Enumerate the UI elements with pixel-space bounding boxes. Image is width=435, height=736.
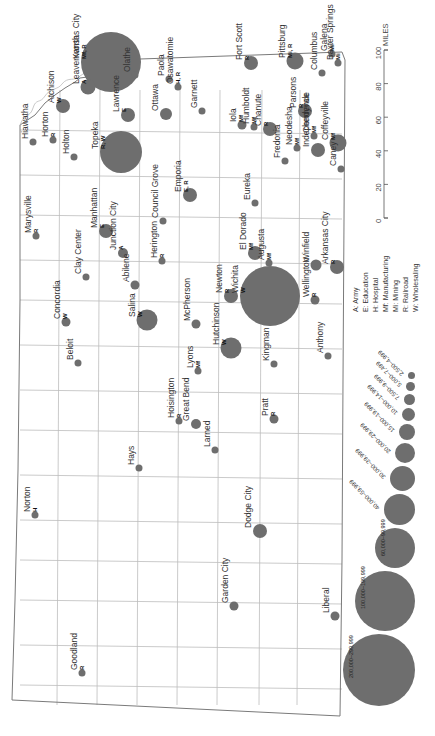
city-name: Manhattan [89, 188, 99, 228]
city-marker: EmporiaE, R [173, 160, 197, 202]
population-circle [136, 465, 143, 472]
function-code: R [270, 411, 276, 416]
city-marker: Council Grove [150, 164, 167, 225]
function-code: R [33, 228, 39, 233]
city-name: Herington [149, 221, 159, 258]
city-name: Goodland [69, 633, 79, 670]
city-name: Dodge City [243, 485, 253, 528]
city-marker: Fort ScottR [234, 23, 258, 70]
city-name: Kingman [261, 327, 271, 361]
population-circle [282, 158, 289, 165]
city-name: Caney [328, 141, 338, 166]
scale-tick-label: 100 [374, 47, 383, 60]
legend-function-item: A: Army [352, 287, 360, 312]
city-marker: TopekaR, W [90, 121, 142, 173]
city-name: Parsons [288, 77, 298, 108]
city-name: Augusta [256, 229, 266, 260]
function-code: Mf [266, 252, 272, 260]
population-circle [212, 447, 219, 454]
city-name: Council Grove [150, 164, 160, 218]
legend-size-label: 30,000–39,999 [354, 447, 387, 480]
legend-size-circle [406, 382, 415, 391]
city-marker: McPherson [182, 278, 201, 329]
city-name: Leavenworth [71, 35, 81, 84]
scale-tick-label: 60 [374, 116, 383, 124]
city-name: Norton [22, 486, 32, 512]
legend-function-item: Mi: Mining [392, 280, 400, 312]
city-marker: Holton [61, 129, 78, 160]
city-marker: Abilene [121, 253, 140, 289]
legend-function-item: Mf: Manufacturing [382, 256, 390, 312]
function-code: H, R [175, 71, 181, 84]
legend-size-label: 40,000–59,999 [348, 478, 381, 511]
city-name: Fort Scott [234, 23, 244, 60]
city-marker: Larned [202, 420, 219, 453]
population-circle [311, 143, 325, 157]
city-marker: Baxter SpringsMi [325, 4, 342, 66]
city-name: Garden City [220, 557, 230, 603]
city-name: Eureka [242, 173, 252, 200]
population-circle [319, 70, 326, 77]
city-name: Winfield [301, 231, 311, 262]
function-code: A [118, 245, 124, 250]
city-marker: Hiawatha [20, 103, 37, 145]
city-marker: PrattR [260, 397, 279, 423]
population-circle [192, 320, 201, 329]
population-circle [325, 353, 332, 360]
city-name: Lawrence [111, 75, 121, 112]
city-name: Anthony [315, 321, 325, 353]
function-code: R [50, 132, 56, 137]
legend-size-circle [399, 424, 415, 440]
city-name: Coffeyville [320, 101, 330, 140]
city-marker: GoodlandR [69, 633, 86, 677]
city-name: Independence [301, 93, 311, 147]
city-name: Hoisington [166, 378, 176, 418]
function-code: E [121, 108, 127, 112]
function-code: W [56, 97, 62, 103]
legend-population-sizes: 2,500–4,9995,000–7,4997,500–9,99910,000–… [343, 349, 415, 706]
population-circle [253, 524, 267, 538]
city-name: Horton [40, 111, 50, 137]
city-name: Beloit [65, 338, 75, 360]
population-circle [131, 281, 140, 290]
function-code: R, W [100, 135, 106, 149]
city-name: Ottawa [150, 84, 160, 111]
function-code: Mi [335, 53, 341, 60]
legend-size-circle [384, 494, 415, 525]
population-circle [230, 602, 239, 611]
function-code: A [81, 79, 87, 84]
function-code: E [99, 224, 105, 228]
city-marker: AugustaMf [256, 229, 273, 267]
city-name: Wichita [230, 265, 240, 293]
city-marker: Dodge City [243, 485, 267, 538]
population-circle [191, 419, 201, 429]
legend-size-circle [408, 372, 415, 379]
legend-size-label: 60,000–99,999 [380, 519, 386, 556]
city-marker: ConcordiaW [52, 280, 71, 327]
scale-tick-label: 80 [374, 82, 383, 90]
legend-size-label: 200,000–299,999 [348, 635, 354, 678]
city-name: Emporia [173, 160, 183, 192]
function-code: E, R [183, 180, 189, 192]
function-code: H [32, 508, 38, 512]
city-name: Concordia [52, 280, 62, 319]
city-marker: HeringtonR [149, 221, 166, 265]
city-name: Pratt [260, 397, 270, 416]
city-name: Marysville [23, 195, 33, 233]
city-marker: NortonH [22, 486, 39, 518]
scale-bar: 020406080100 MILES [374, 23, 390, 223]
city-marker: LyonsMf [185, 346, 202, 375]
function-code: R [244, 55, 250, 60]
legend-size-label: 100,000–199,999 [360, 566, 366, 609]
city-name: Baxter Springs [325, 4, 335, 60]
population-circle [30, 139, 37, 146]
city-name: Wellington [301, 257, 311, 297]
city-name: Liberal [321, 587, 331, 613]
function-code: R [263, 121, 269, 126]
city-marker: PittsburgMi, R [277, 24, 304, 69]
city-name: Holton [61, 129, 71, 154]
city-marker: WichitaW [230, 265, 300, 326]
city-name: Larned [202, 420, 212, 447]
population-circle [331, 612, 340, 621]
city-marker: Garden City [220, 557, 239, 611]
